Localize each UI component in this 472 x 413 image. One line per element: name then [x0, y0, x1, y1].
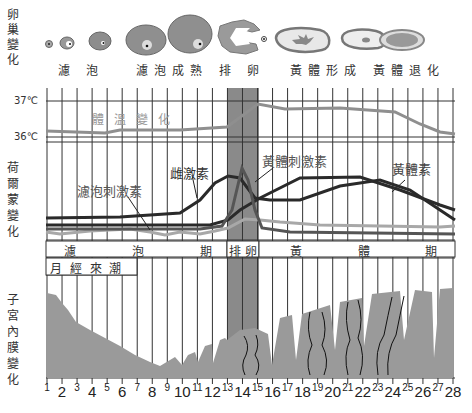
follicular-phase-char: 泡: [132, 242, 144, 259]
day-label: 15: [252, 382, 263, 393]
day-label: 20: [324, 383, 341, 400]
follicular-phase-char: 期: [200, 242, 212, 259]
day-label: 7: [134, 382, 140, 393]
day-label: 12: [204, 383, 221, 400]
day-label: 27: [432, 382, 443, 393]
day-label: 23: [372, 382, 383, 393]
luteal-phase-char: 黃: [290, 242, 302, 259]
stage-corpus-luteum-regression: 黃體退化: [373, 61, 445, 78]
day-label: 4: [88, 383, 96, 400]
day-label: 26: [415, 383, 432, 400]
menstruation-label: 月 經 來 潮: [50, 259, 123, 276]
stage-follicle: 濾 泡: [58, 61, 104, 78]
day-label: 14: [234, 383, 251, 400]
ovulation-phase-label: 排 卵: [229, 242, 257, 259]
day-label: 3: [74, 382, 80, 393]
day-label: 24: [385, 383, 402, 400]
day-label: 22: [354, 383, 371, 400]
day-label: 19: [312, 382, 323, 393]
day-label: 2: [58, 383, 66, 400]
day-label: 11: [192, 382, 202, 393]
progesterone-label: 黃體素: [392, 159, 431, 178]
day-label: 21: [342, 382, 353, 393]
estrogen-label: 雌激素: [170, 163, 209, 182]
ovary-illustrations: [46, 15, 425, 55]
temperature-title: 體溫變化: [92, 110, 180, 127]
day-label: 25: [402, 382, 413, 393]
stage-corpus-luteum-formation: 黃體形成: [290, 61, 362, 78]
day-label: 6: [118, 383, 126, 400]
day-label: 18: [294, 383, 311, 400]
day-label: 5: [104, 382, 110, 393]
day-label: 28: [445, 383, 462, 400]
luteal-phase-char: 期: [425, 242, 437, 259]
day-label: 13: [222, 382, 233, 393]
luteal-phase-char: 體: [358, 242, 370, 259]
fsh-label: 濾泡刺激素: [77, 181, 142, 200]
day-label: 16: [264, 383, 281, 400]
follicular-phase-char: 濾: [64, 242, 76, 259]
day-label: 8: [148, 383, 156, 400]
endometrium-late: [227, 288, 453, 378]
day-label: 9: [165, 382, 171, 393]
day-label: 17: [282, 382, 293, 393]
day-label: 1: [44, 382, 50, 393]
stage-ovulation: 排 卵: [219, 61, 265, 78]
temp-37-label: 37℃: [14, 95, 38, 106]
stage-follicle-mature: 濾泡成熟: [136, 61, 208, 78]
temp-36-label: 36℃: [14, 131, 38, 142]
lh-label: 黃體刺激素: [262, 151, 327, 170]
day-label: 10: [174, 383, 191, 400]
